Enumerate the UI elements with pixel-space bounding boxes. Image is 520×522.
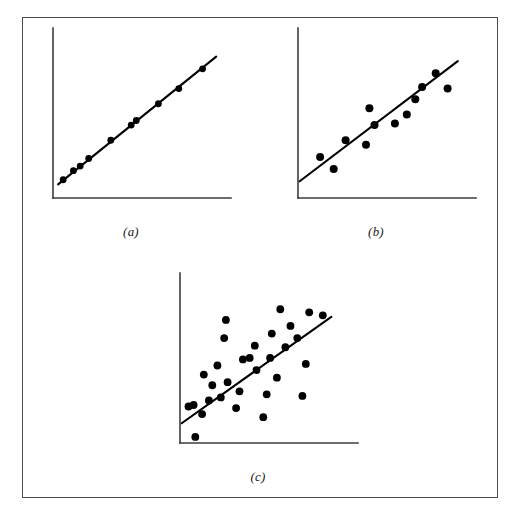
- panel-b-data-point: [371, 121, 379, 129]
- panel-c-data-point: [253, 366, 261, 374]
- panel-b-data-point: [418, 83, 426, 91]
- panel-a-data-point: [128, 122, 135, 129]
- panel-c-data-point: [214, 362, 222, 370]
- panel-c-data-point: [191, 433, 199, 441]
- panel-a-data-point: [155, 100, 162, 107]
- panel-c-data-point: [268, 330, 276, 338]
- panel-a-data-point: [85, 155, 92, 162]
- panel-c-data-point: [273, 374, 281, 382]
- panel-a: (a): [27, 26, 235, 244]
- panel-c-data-point: [282, 343, 290, 351]
- panel-a-data-point: [199, 65, 206, 72]
- panel-b-plot: [272, 26, 480, 231]
- panel-c-data-point: [266, 354, 274, 362]
- panel-c-data-point: [222, 316, 230, 324]
- panel-b-data-point: [391, 120, 399, 128]
- panel-a-plot: [27, 26, 235, 231]
- panel-b-data-point: [316, 153, 324, 161]
- panel-c-data-point: [263, 390, 271, 398]
- panel-c-data-point: [217, 394, 225, 402]
- panel-c-data-point: [208, 381, 216, 389]
- panel-c-data-point: [239, 356, 247, 364]
- panel-a-data-point: [60, 176, 67, 183]
- panel-c-data-point: [276, 305, 284, 313]
- panel-b-caption: (b): [272, 224, 480, 240]
- panel-c-plot: [154, 271, 362, 476]
- panel-c-data-point: [251, 342, 259, 350]
- panel-b-data-point: [330, 165, 338, 173]
- figure-root: (a) (b) (c): [0, 0, 520, 522]
- panel-c-data-point: [259, 413, 267, 421]
- panel-b-data-point: [342, 136, 350, 144]
- panel-c-data-point: [198, 410, 206, 418]
- panel-c-data-point: [224, 378, 232, 386]
- panel-c: (c): [154, 271, 362, 489]
- panel-c-caption: (c): [154, 469, 362, 485]
- panel-c-data-point: [299, 392, 307, 400]
- panel-b-data-point: [444, 85, 452, 93]
- panel-c-data-point: [236, 387, 244, 395]
- panel-c-data-point: [190, 401, 198, 409]
- panel-c-data-point: [287, 322, 295, 330]
- panel-c-data-point: [302, 360, 310, 368]
- panel-b-data-point: [365, 104, 373, 112]
- panel-a-caption: (a): [27, 224, 235, 240]
- panel-c-data-point: [246, 354, 254, 362]
- panel-b-data-point: [411, 95, 419, 103]
- panel-b-data-point: [362, 141, 370, 149]
- panel-a-data-point: [175, 85, 182, 92]
- panel-b-fit-line: [300, 61, 458, 181]
- panel-a-data-point: [107, 137, 114, 144]
- panel-c-data-point: [319, 311, 327, 319]
- figure-outer-border: (a) (b) (c): [22, 17, 498, 498]
- panel-b-data-point: [403, 110, 411, 118]
- panel-c-data-point: [200, 371, 208, 379]
- panel-a-data-point: [77, 163, 84, 170]
- panel-a-data-point: [133, 117, 140, 124]
- panel-c-data-point: [305, 308, 313, 316]
- panel-c-data-point: [220, 334, 228, 342]
- panel-b: (b): [272, 26, 480, 244]
- panel-c-data-point: [293, 334, 301, 342]
- panel-a-data-point: [70, 167, 77, 174]
- panel-b-data-point: [432, 69, 440, 77]
- panel-c-data-point: [205, 397, 213, 405]
- panel-c-data-point: [232, 404, 240, 412]
